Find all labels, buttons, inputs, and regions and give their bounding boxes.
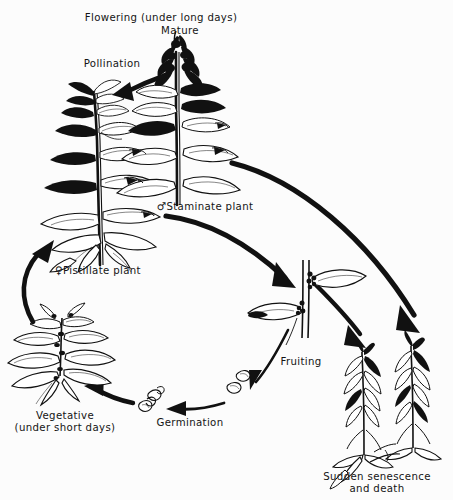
- fruiting-to-senescence-arrow: [316, 285, 366, 348]
- pistillate-plant-label-text: Pistillate plant: [63, 265, 141, 276]
- flowering-label: Flowering (under long days): [85, 12, 237, 25]
- senescent-plants-figure: [330, 330, 441, 489]
- staminate-plant-label: ♂Staminate plant: [157, 200, 254, 214]
- seeds-figure: [227, 371, 250, 394]
- vegetative-label: Vegetative (under short days): [15, 410, 116, 434]
- pollination-label: Pollination: [84, 58, 141, 71]
- female-symbol-icon: ♀: [55, 264, 63, 276]
- seeds-to-germination-arrow: [166, 401, 224, 416]
- germinating-seeds-figure: [139, 387, 165, 412]
- senescence-label: Sudden senescence and death: [323, 471, 431, 495]
- staminate-plant-label-text: Staminate plant: [166, 201, 253, 212]
- pistillate-plant-label: ♀Pistillate plant: [55, 264, 141, 278]
- germination-label: Germination: [157, 417, 224, 430]
- mature-label: Mature: [161, 25, 199, 38]
- male-symbol-icon: ♂: [157, 200, 167, 212]
- pistillate-to-fruiting-arrow: [166, 216, 296, 288]
- fruiting-label: Fruiting: [280, 356, 321, 369]
- life-cycle-diagram: Flowering (under long days) Mature Polli…: [0, 0, 453, 500]
